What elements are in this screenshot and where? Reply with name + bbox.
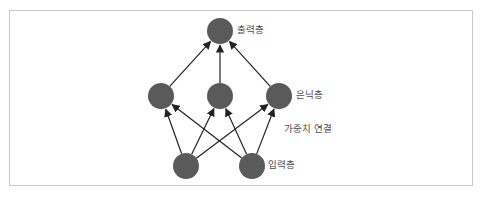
output-layer-label: 출력층 [237, 25, 264, 35]
hidden-neuron [207, 83, 233, 109]
connection-arrow [170, 41, 211, 86]
hidden-neuron [266, 83, 292, 109]
connection-arrow [166, 109, 182, 154]
input-neuron [173, 153, 199, 179]
input-neuron [239, 153, 265, 179]
hidden-neuron [148, 83, 174, 109]
weighted-connections-label: 가중치 연결 [284, 124, 332, 134]
connection-arrow [226, 109, 247, 154]
output-neuron [207, 18, 233, 44]
connection-arrow [229, 41, 270, 86]
connection-arrow [257, 109, 274, 154]
input-layer-label: 입력층 [268, 160, 295, 170]
hidden-layer-label: 은닉층 [296, 90, 323, 100]
neurons [148, 18, 292, 179]
